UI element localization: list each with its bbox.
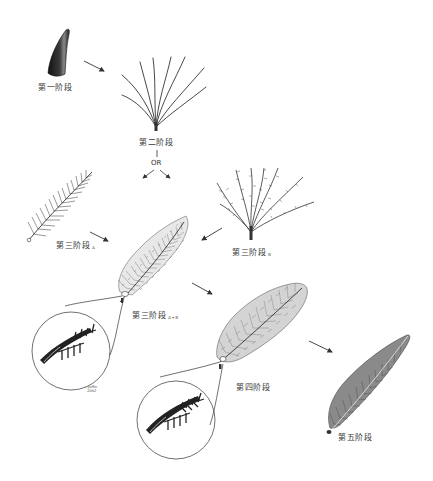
stage3a-label-text: 第三阶段 (56, 241, 90, 250)
stage1-label: 第一阶段 (38, 81, 72, 92)
stage4-label: 第四阶段 (236, 381, 270, 392)
stage1-cone-icon (48, 29, 69, 76)
stage3b-barbed-tuft-icon (217, 168, 314, 240)
arrow-icon (160, 170, 170, 178)
inset-barbules-icon (40, 324, 96, 364)
stage3b-subscript: B (268, 252, 271, 257)
arrow-icon (143, 170, 154, 178)
arrow-icon (84, 61, 104, 71)
stage5-label: 第五阶段 (338, 431, 372, 442)
stage5-flight-feather-icon (327, 335, 410, 434)
or-label: OR (151, 159, 161, 167)
stage3ab-feather-icon (118, 216, 188, 303)
arrow-icon (309, 341, 332, 352)
stage3b-label-text: 第三阶段 (232, 248, 266, 257)
stage2-label: 第二阶段 (139, 136, 173, 147)
inset-hooked-barbules-icon (146, 393, 204, 434)
inset-magnifier-stage3ab (32, 296, 124, 390)
stage3ab-label-text: 第三阶段 (132, 311, 166, 320)
stage3b-label: 第三阶段B (232, 246, 271, 257)
stage4-vane-feather-icon (217, 283, 308, 369)
arrow-icon (192, 283, 212, 294)
stage2-tuft-icon (122, 57, 206, 131)
stage3a-pinnate-icon (27, 170, 92, 242)
artist-signature: ~ Juffin 2002 (84, 385, 97, 393)
stage3ab-subscript: A+B (168, 315, 179, 320)
stage3ab-label: 第三阶段A+B (132, 309, 179, 320)
arrow-icon (202, 228, 222, 240)
stage3a-subscript: A (92, 245, 95, 250)
stage3a-label: 第三阶段A (56, 239, 95, 250)
feather-evolution-diagram: 第一阶段 第二阶段 OR 第三阶段A 第三阶段B 第三阶段A+B 第四阶段 第五… (0, 0, 433, 481)
